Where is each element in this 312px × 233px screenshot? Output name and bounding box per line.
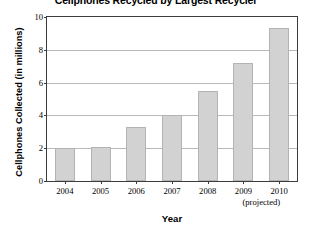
y-tick-mark [44,181,47,182]
y-tick-mark [44,115,47,116]
x-tick-mark [136,181,137,184]
x-tick-mark [243,181,244,184]
bar-2004 [55,148,75,181]
y-tick-label: 4 [39,110,43,120]
y-tick-label: 2 [39,143,43,153]
y-tick-label: 0 [39,176,43,186]
x-tick-mark [279,181,280,184]
x-tick-mark [172,181,173,184]
gridline [47,83,297,84]
y-tick-label: 8 [39,45,43,55]
bar-2010 [269,28,289,181]
projected-note: (projected) [242,197,280,207]
x-tick-label-2009: 2009 [235,186,252,196]
bar-2005 [91,147,111,181]
plot-area: 02468102004200520062007200820092010(proj… [46,16,298,182]
bar-chart-figure: Cellphones Recycled by Largest Recycler … [0,0,312,233]
y-tick-label: 10 [34,12,43,22]
x-tick-label-2010: 2010 [271,186,288,196]
x-tick-label-2007: 2007 [163,186,180,196]
y-tick-mark [44,83,47,84]
x-tick-mark [65,181,66,184]
y-axis-title: Cellphones Collected (in millions) [14,22,24,182]
bar-2009 [233,63,253,181]
gridline [47,50,297,51]
bar-2006 [126,127,146,181]
y-tick-mark [44,17,47,18]
y-tick-label: 6 [39,78,43,88]
x-tick-label-2006: 2006 [128,186,145,196]
x-tick-mark [208,181,209,184]
x-tick-label-2005: 2005 [92,186,109,196]
bar-2007 [162,115,182,181]
x-tick-label-2008: 2008 [199,186,216,196]
x-tick-mark [101,181,102,184]
x-tick-label-2004: 2004 [56,186,73,196]
bar-2008 [198,91,218,181]
y-tick-mark [44,50,47,51]
chart-title: Cellphones Recycled by Largest Recycler [0,0,312,6]
x-axis-title: Year [46,213,298,224]
y-tick-mark [44,148,47,149]
